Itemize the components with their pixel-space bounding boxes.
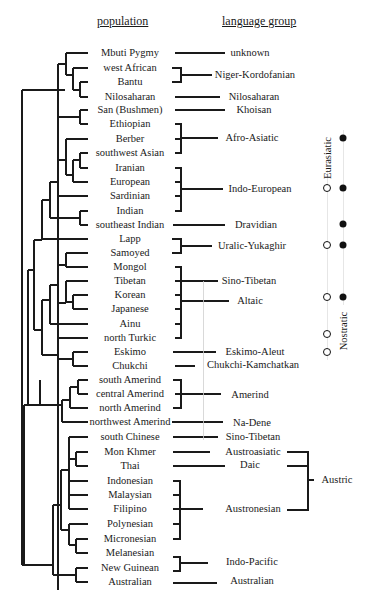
superfamily-label-austric: Austric <box>322 474 353 486</box>
language-group-label: Sino-Tibetan <box>222 275 276 287</box>
language-group-label: Austroasiatic <box>225 446 280 458</box>
population-label: Tibetan <box>113 275 147 287</box>
eurasiatic-hollow-circle-icon <box>323 293 331 301</box>
population-label: Indonesian <box>106 475 154 487</box>
population-label: New Guinean <box>100 562 160 574</box>
population-label: Korean <box>114 289 147 301</box>
population-label: Melanesian <box>105 547 155 559</box>
population-label: Australian <box>107 576 153 588</box>
language-group-label: Dravidian <box>235 219 277 231</box>
language-group-label: Niger-Kordofanian <box>215 69 295 81</box>
language-group-label: Australian <box>230 575 274 587</box>
population-label: Mongol <box>112 261 147 273</box>
population-label: west African <box>102 62 157 74</box>
population-label: Mbuti Pygmy <box>100 47 160 59</box>
population-label: Berber <box>115 133 146 145</box>
language-group-label: Khoisan <box>237 104 272 116</box>
language-group-label: Na-Dene <box>233 417 271 429</box>
population-label: southeast Indian <box>95 219 166 231</box>
nostratic-filled-circle-icon <box>340 242 347 249</box>
language-group-header: language group <box>222 14 296 29</box>
language-group-label: Chukchi-Kamchatkan <box>207 359 299 371</box>
nostratic-filled-circle-icon <box>340 135 347 142</box>
population-label: Ethiopian <box>109 118 152 130</box>
population-label: north Amerind <box>98 402 162 414</box>
language-group-label: Indo-Pacific <box>226 556 278 568</box>
population-label: Eskimo <box>113 346 147 358</box>
eurasiatic-hollow-circle-icon <box>323 330 331 338</box>
population-label: Japanese <box>110 303 149 315</box>
population-label: Indian <box>116 205 145 217</box>
language-group-label: Nilosaharan <box>229 91 280 103</box>
language-group-label: Altaic <box>237 295 263 307</box>
language-group-label: Amerind <box>231 389 268 401</box>
population-label: European <box>109 176 151 188</box>
population-label: Bantu <box>116 76 143 88</box>
language-group-label: Afro-Asiatic <box>225 132 278 144</box>
phylogenetic-tree-figure: population language group Mbuti Pygmywes… <box>0 0 367 605</box>
population-label: central Amerind <box>95 388 165 400</box>
population-label: Ainu <box>119 318 142 330</box>
population-label: Polynesian <box>106 518 154 530</box>
population-label: south Amerind <box>98 374 162 386</box>
population-label: Samoyed <box>109 247 150 259</box>
language-group-label: Austronesian <box>225 503 280 515</box>
population-label: Malaysian <box>107 489 153 501</box>
language-group-label: Uralic-Yukaghir <box>218 240 286 252</box>
population-label: northwest Amerind <box>89 416 172 428</box>
population-label: south Chinese <box>99 431 160 443</box>
language-group-label: Sino-Tibetan <box>226 431 280 443</box>
language-group-label: unknown <box>230 47 269 59</box>
population-label: Filipino <box>112 503 147 515</box>
eurasiatic-hollow-circle-icon <box>323 348 331 356</box>
population-label: Chukchi <box>111 360 149 372</box>
superfamily-label-eurasiatic: Eurasiatic <box>322 137 333 179</box>
eurasiatic-hollow-circle-icon <box>323 184 331 192</box>
population-label: southwest Asian <box>95 147 166 159</box>
population-label: north Turkic <box>103 332 157 344</box>
nostratic-filled-circle-icon <box>340 294 347 301</box>
superfamily-label-nostratic: Nostratic <box>338 312 349 351</box>
population-label: Nilosaharan <box>104 91 157 103</box>
population-label: San (Bushmen) <box>96 104 163 116</box>
population-header: population <box>97 14 148 29</box>
population-label: Sardinian <box>109 190 151 202</box>
language-group-label: Eskimo-Aleut <box>226 346 285 358</box>
population-label: Thai <box>119 460 140 472</box>
eurasiatic-hollow-circle-icon <box>323 241 331 249</box>
nostratic-filled-circle-icon <box>340 221 347 228</box>
tree-branches <box>0 0 367 605</box>
language-group-label: Daic <box>240 459 260 471</box>
population-label: Iranian <box>114 162 146 174</box>
nostratic-filled-circle-icon <box>340 185 347 192</box>
population-label: Lapp <box>118 233 142 245</box>
population-label: Mon Khmer <box>103 446 157 458</box>
language-group-label: Indo-European <box>229 183 292 195</box>
population-label: Micronesian <box>103 533 158 545</box>
